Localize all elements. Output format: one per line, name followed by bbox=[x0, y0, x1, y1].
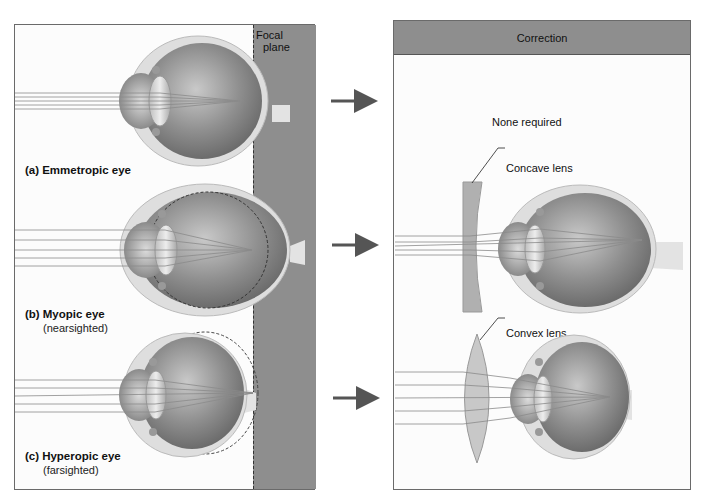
convex-lens-icon bbox=[465, 318, 506, 463]
emmetropic-eye-icon bbox=[15, 36, 290, 166]
myopic-eye-icon bbox=[15, 184, 305, 316]
corrected-hyperopic-eye-icon bbox=[395, 335, 632, 459]
eye-illustrations bbox=[0, 0, 707, 496]
hyperopic-eye-icon bbox=[15, 332, 258, 457]
corrected-myopic-eye-icon bbox=[395, 185, 683, 313]
concave-lens-icon bbox=[463, 148, 505, 312]
